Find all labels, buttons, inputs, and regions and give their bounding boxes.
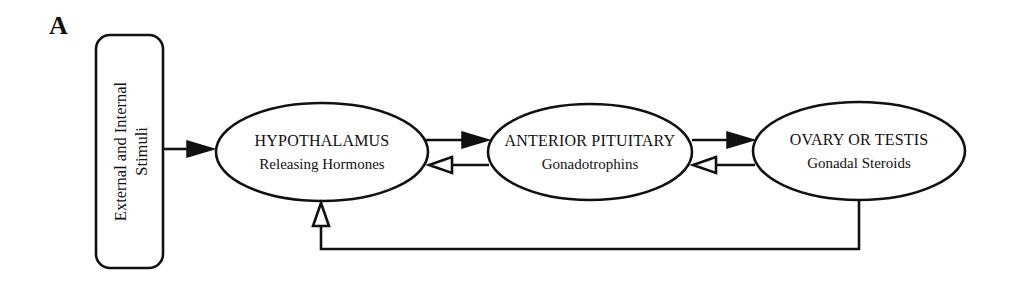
hpg-axis-diagram: A External and Internal Stimuli HYPOTHAL… [0,0,1017,283]
hypothalamus-subtitle: Releasing Hormones [259,156,385,172]
open-arrowhead-icon [693,157,716,173]
stimuli-label-line1: External and Internal [111,81,130,221]
anterior-pituitary-title: ANTERIOR PITUITARY [505,132,676,149]
arrow-stimuli-to-hypothalamus [163,141,214,157]
open-arrowhead-icon [429,157,452,173]
panel-label: A [49,11,68,40]
filled-arrowhead-icon [187,141,214,157]
stimuli-box-outline [96,35,163,268]
filled-arrowhead-icon [727,132,754,148]
hypothalamus-ellipse [216,103,428,201]
arrow-ovary-to-pituitary [693,157,755,173]
stimuli-label-line2: Stimuli [132,127,151,176]
open-arrowhead-icon [313,203,329,226]
arrow-hypothalamus-to-pituitary [426,132,489,148]
arrow-pituitary-to-ovary [692,132,754,148]
anterior-pituitary-ellipse [488,104,692,200]
filled-arrowhead-icon [462,132,489,148]
ovary-or-testis-subtitle: Gonadal Steroids [807,155,911,171]
node-anterior-pituitary: ANTERIOR PITUITARY Gonadotrophins [488,104,692,200]
arrow-ovary-to-hypothalamus-feedback [313,200,859,249]
hypothalamus-title: HYPOTHALAMUS [255,132,390,149]
node-hypothalamus: HYPOTHALAMUS Releasing Hormones [216,103,428,201]
ovary-or-testis-ellipse [753,102,965,200]
arrow-pituitary-to-hypothalamus [429,157,489,173]
node-ovary-or-testis: OVARY OR TESTIS Gonadal Steroids [753,102,965,200]
ovary-or-testis-title: OVARY OR TESTIS [790,131,929,148]
stimuli-box: External and Internal Stimuli [96,35,163,268]
anterior-pituitary-subtitle: Gonadotrophins [542,156,639,172]
